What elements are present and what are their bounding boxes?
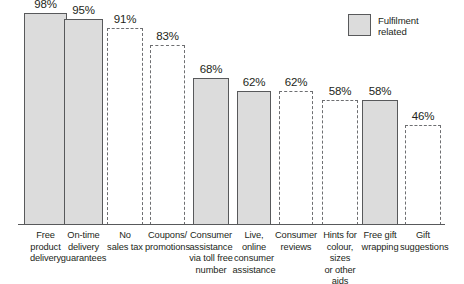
category-label: Coupons/promotions <box>145 230 190 253</box>
category-label-line: guarantees <box>59 253 108 265</box>
bar-slot: 95% <box>64 0 103 225</box>
bar-value-label: 91% <box>114 13 136 25</box>
category-label-line: or other <box>317 265 363 277</box>
category-label-line: number <box>188 265 234 277</box>
category-label-line: consumer <box>232 253 276 265</box>
bar-value-label: 58% <box>329 85 351 97</box>
bar-slot: 62% <box>237 0 271 225</box>
category-label-line: Consumer <box>188 230 234 242</box>
legend: Fulfilment related <box>348 14 419 38</box>
category-label-line: aids <box>317 276 363 284</box>
category-label-line: Coupons/ <box>145 230 190 242</box>
category-label-line: assistance <box>232 265 276 277</box>
bar-value-label: 62% <box>285 76 307 88</box>
bar[interactable] <box>362 100 398 225</box>
category-label-line: Free gift <box>357 230 403 242</box>
legend-swatch-fulfilment-related <box>348 14 371 36</box>
category-label-line: Live, online <box>232 230 276 253</box>
bar-slot: 83% <box>150 0 185 225</box>
bar-value-label: 98% <box>34 0 56 10</box>
category-label-line: delivery <box>59 242 108 254</box>
bar-slot: 91% <box>107 0 143 225</box>
bar-value-label: 62% <box>243 76 265 88</box>
category-label-line: Consumer <box>274 230 318 242</box>
category-label: Free giftwrapping <box>357 230 403 253</box>
bar[interactable] <box>237 91 271 225</box>
category-label-line: promotions <box>145 242 190 254</box>
bar[interactable] <box>64 19 103 225</box>
category-label: Consumerreviews <box>274 230 318 253</box>
bar-chart: 98%95%91%83%68%62%62%58%58%46% Freeprodu… <box>0 0 464 284</box>
category-label-line: No <box>102 230 148 242</box>
bar-value-label: 68% <box>200 63 222 75</box>
bar-slot: 62% <box>279 0 313 225</box>
bar-value-label: 95% <box>72 4 94 16</box>
category-label-line: Gift <box>400 230 446 242</box>
bar-value-label: 58% <box>369 85 391 97</box>
category-label-line: On-time <box>59 230 108 242</box>
legend-label: Fulfilment related <box>378 14 419 38</box>
category-label: Giftsuggestions <box>400 230 446 253</box>
category-label-line: via toll free <box>188 253 234 265</box>
category-label: Consumerassistancevia toll freenumber <box>188 230 234 276</box>
category-label-line: reviews <box>274 242 318 254</box>
bar[interactable] <box>24 13 67 225</box>
bar[interactable] <box>405 125 441 225</box>
bar[interactable] <box>279 91 313 225</box>
bar[interactable] <box>193 78 229 225</box>
bar-value-label: 46% <box>412 110 434 122</box>
category-label-line: sales tax <box>102 242 148 254</box>
x-axis-baseline <box>18 224 445 225</box>
category-label: Live, onlineconsumerassistance <box>232 230 276 276</box>
category-label: On-timedeliveryguarantees <box>59 230 108 265</box>
bar-slot: 98% <box>24 0 67 225</box>
bar-slot: 68% <box>193 0 229 225</box>
category-label: Nosales tax <box>102 230 148 253</box>
bar[interactable] <box>107 28 143 225</box>
bar[interactable] <box>322 100 358 225</box>
category-label-line: assistance <box>188 242 234 254</box>
bar[interactable] <box>150 45 185 225</box>
category-label-line: suggestions <box>400 242 446 254</box>
category-label-line: wrapping <box>357 242 403 254</box>
bar-value-label: 83% <box>156 30 178 42</box>
x-axis-category-labels: FreeproductdeliveryOn-timedeliveryguaran… <box>18 230 445 284</box>
